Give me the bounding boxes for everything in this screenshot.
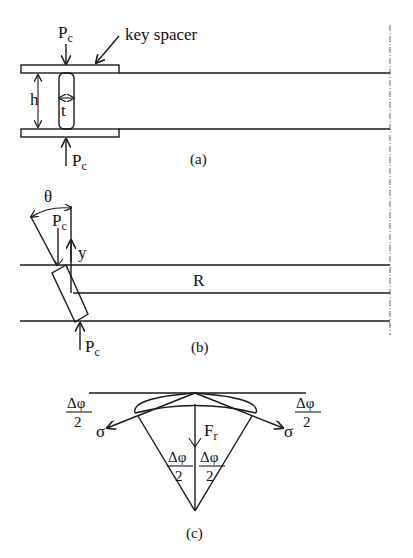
svg-text:2: 2	[303, 414, 311, 430]
caption-b: (b)	[191, 339, 209, 356]
panel-c: Fr σ σ Δφ 2 Δφ 2 Δφ 2 Δφ 2 (c)	[66, 393, 321, 542]
theta-label: θ	[44, 187, 52, 206]
right-stress-label: σ	[284, 422, 293, 441]
radial-force-label: Fr	[204, 421, 217, 443]
left-angle-fraction: Δφ 2	[66, 395, 92, 430]
top-plate	[21, 65, 119, 73]
caption-a: (a)	[190, 151, 207, 168]
left-stress-label: σ	[96, 422, 105, 441]
svg-text:2: 2	[175, 468, 183, 484]
key-spacer-label: key spacer	[125, 25, 198, 44]
right-angle-fraction: Δφ 2	[295, 395, 321, 430]
left-stress-arrow	[107, 393, 195, 428]
center-right-angle-fraction: Δφ 2	[199, 449, 225, 484]
caption-c: (c)	[186, 525, 203, 542]
svg-text:2: 2	[206, 468, 214, 484]
svg-text:Δφ: Δφ	[296, 395, 315, 411]
key-spacer-leader	[96, 36, 119, 63]
svg-text:Δφ: Δφ	[168, 449, 187, 465]
center-left-angle-fraction: Δφ 2	[167, 449, 193, 484]
bottom-plate	[21, 129, 119, 137]
panel-b: θ Pc y R Pc (b)	[20, 187, 390, 359]
top-force-label-b: Pc	[52, 211, 67, 233]
svg-text:Δφ: Δφ	[67, 395, 86, 411]
thickness-label: t	[61, 101, 66, 120]
bottom-force-label: Pc	[72, 151, 87, 173]
height-label: h	[30, 90, 39, 109]
top-force-label: Pc	[58, 23, 73, 45]
left-radius-line	[138, 416, 195, 511]
svg-text:2: 2	[74, 414, 82, 430]
panel-a: h t Pc Pc key spacer (a)	[21, 23, 390, 173]
radius-label: R	[193, 271, 205, 290]
bottom-force-label-b: Pc	[85, 337, 100, 359]
y-offset-label: y	[78, 243, 87, 262]
figure-canvas: h t Pc Pc key spacer (a) θ Pc y	[0, 0, 413, 558]
svg-text:Δφ: Δφ	[200, 449, 219, 465]
theta-arc	[31, 208, 71, 217]
